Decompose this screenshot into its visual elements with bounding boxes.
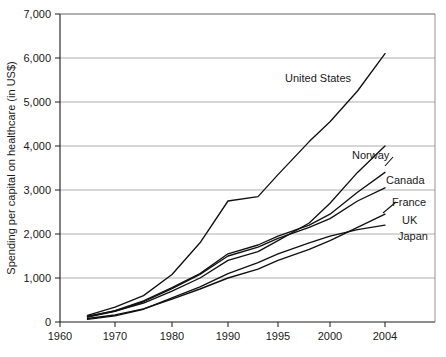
y-tick-label: 6,000 <box>23 52 51 64</box>
series-label-uk: UK <box>402 214 418 226</box>
x-tick-label: 2004 <box>373 330 397 342</box>
chart-container: 01,0002,0003,0004,0005,0006,0007,000 196… <box>0 0 446 357</box>
chart-background <box>0 0 446 357</box>
y-tick-label: 7,000 <box>23 8 51 20</box>
y-tick-label: 0 <box>45 316 51 328</box>
series-label-united-states: United States <box>285 72 352 84</box>
y-axis-title: Spending per capital on healthcare (in U… <box>5 61 17 274</box>
y-tick-label: 4,000 <box>23 140 51 152</box>
y-tick-label: 2,000 <box>23 228 51 240</box>
y-tick-label: 1,000 <box>23 272 51 284</box>
y-tick-label: 3,000 <box>23 184 51 196</box>
y-tick-label: 5,000 <box>23 96 51 108</box>
x-tick-label: 2000 <box>318 330 342 342</box>
series-label-france: France <box>392 196 426 208</box>
x-tick-label: 1970 <box>103 330 127 342</box>
series-label-canada: Canada <box>386 174 425 186</box>
series-label-norway: Norway <box>352 149 390 161</box>
series-label-japan: Japan <box>398 230 428 242</box>
x-tick-label: 1990 <box>216 330 240 342</box>
x-tick-label: 1960 <box>48 330 72 342</box>
line-chart: 01,0002,0003,0004,0005,0006,0007,000 196… <box>0 0 446 357</box>
x-tick-label: 1995 <box>266 330 290 342</box>
x-tick-label: 1980 <box>160 330 184 342</box>
